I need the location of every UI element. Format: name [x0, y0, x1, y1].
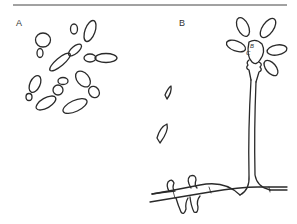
illustration-figure: A B B C: [0, 0, 297, 224]
annotation-c: C: [246, 50, 250, 56]
illustration-drawing: [0, 0, 297, 224]
annotation-b: B: [250, 43, 254, 49]
panel-label-b: B: [179, 18, 185, 28]
panel-label-a: A: [16, 18, 22, 28]
panel-a-spores: [26, 19, 117, 117]
panel-b-conidiophore: [150, 16, 288, 214]
